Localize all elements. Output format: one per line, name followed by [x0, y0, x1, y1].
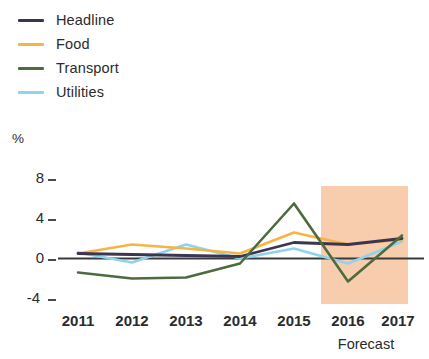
chart-plot-area: [0, 0, 429, 359]
x-tick-label-2014: 2014: [213, 312, 267, 329]
chart-figure: Headline Food Transport Utilities % 8 4 …: [0, 0, 429, 359]
x-tick-label-2012: 2012: [105, 312, 159, 329]
x-tick-label-2017: 2017: [371, 312, 425, 329]
x-tick-label-2015: 2015: [267, 312, 321, 329]
forecast-caption: Forecast: [306, 336, 426, 352]
x-tick-label-2013: 2013: [159, 312, 213, 329]
x-tick-label-2011: 2011: [51, 312, 105, 329]
x-tick-label-2016: 2016: [321, 312, 375, 329]
